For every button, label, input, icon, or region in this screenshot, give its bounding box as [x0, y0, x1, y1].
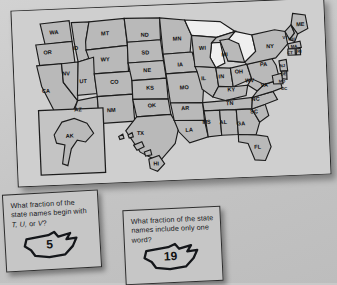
state-label-mt: MT — [101, 30, 110, 36]
answer-mini-map-2: 19 — [125, 238, 223, 280]
state-label-nd: ND — [140, 32, 148, 38]
state-label-va: VA — [261, 82, 269, 88]
state-label-mn: MN — [173, 35, 182, 41]
state-label-oh: OH — [234, 68, 243, 74]
state-label-wa: WA — [49, 29, 58, 35]
state-label-la: LA — [185, 127, 193, 133]
state-label-ri: RI — [297, 49, 301, 54]
state-label-ct: CT — [287, 50, 293, 55]
state-label-hi: HI — [153, 160, 159, 166]
state-label-mi: MI — [221, 51, 228, 57]
state-label-ia: IA — [177, 61, 183, 67]
state-label-ms: MS — [202, 119, 211, 125]
state-shape-or — [36, 41, 75, 66]
map-canvas: WAORCANVIDMTWYUTCOAZNMNDSDNEKSOKTXMNIAMO… — [11, 0, 330, 186]
state-label-id: ID — [73, 45, 79, 51]
state-label-mo: MO — [180, 84, 190, 90]
state-label-in: IN — [218, 73, 224, 79]
state-label-al: AL — [219, 119, 227, 125]
state-label-il: IL — [201, 75, 207, 81]
state-label-dc: DC — [281, 86, 287, 91]
state-label-ut: UT — [79, 78, 87, 84]
state-label-ak: AK — [66, 133, 74, 139]
state-label-wv: WV — [245, 77, 255, 83]
state-label-tx: TX — [137, 130, 145, 136]
state-label-pa: PA — [260, 61, 268, 67]
state-label-sc: SC — [250, 108, 258, 114]
state-label-nv: NV — [62, 70, 70, 76]
state-label-ny: NY — [266, 43, 274, 49]
state-label-nm: NM — [107, 107, 116, 113]
state-label-wi: WI — [199, 45, 207, 51]
state-label-co: CO — [110, 79, 119, 85]
state-label-me: ME — [296, 21, 305, 27]
state-label-ga: GA — [237, 120, 246, 126]
question-card-one-word[interactable]: What fraction of the state names include… — [122, 206, 223, 285]
state-label-sd: SD — [141, 49, 149, 55]
state-shape-nd — [124, 17, 160, 42]
answer-value-2: 19 — [163, 249, 177, 264]
state-label-nc: NC — [251, 96, 259, 102]
state-label-ks: KS — [146, 84, 154, 90]
state-label-nj: NJ — [279, 63, 285, 68]
state-label-ca: CA — [42, 88, 50, 94]
state-label-de: DE — [281, 71, 287, 76]
state-label-wy: WY — [100, 56, 110, 62]
answer-mini-map-1: 5 — [5, 224, 101, 267]
state-label-fl: FL — [254, 144, 262, 150]
state-label-tn: TN — [226, 100, 234, 106]
state-label-az: AZ — [74, 106, 82, 112]
us-map-svg: WAORCANVIDMTWYUTCOAZNMNDSDNEKSOKTXMNIAMO… — [11, 0, 330, 186]
state-label-md: MD — [278, 79, 285, 84]
united-states-map-poster[interactable]: WAORCANVIDMTWYUTCOAZNMNDSDNEKSOKTXMNIAMO… — [10, 0, 331, 187]
state-label-ar: AR — [181, 105, 189, 111]
question-card-initial-letters[interactable]: What fraction of the state names begin w… — [2, 189, 102, 272]
state-label-or: OR — [43, 49, 52, 55]
state-label-ok: OK — [147, 102, 156, 108]
state-label-ky: KY — [227, 86, 235, 92]
answer-value-1: 5 — [46, 237, 54, 251]
state-label-nh: NH — [288, 36, 294, 41]
state-label-ne: NE — [143, 67, 151, 73]
